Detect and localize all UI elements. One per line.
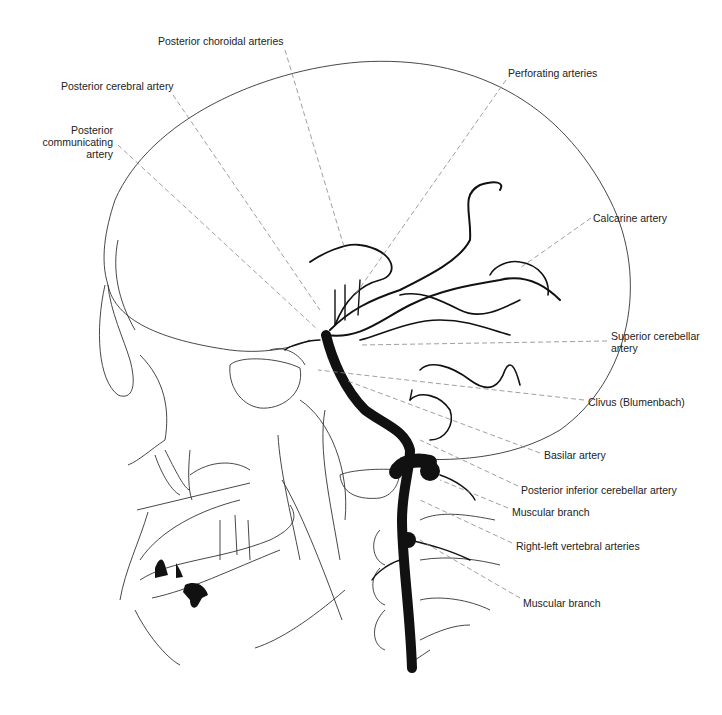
label-superior-cerebellar-artery-2: artery — [611, 342, 638, 354]
label-perforating-arteries: Perforating arteries — [508, 67, 597, 79]
skull-outline — [99, 61, 630, 648]
label-muscular-branch-2: Muscular branch — [523, 597, 601, 609]
leader-perforating-arteries — [355, 80, 506, 295]
leader-posterior-communicating-artery-3 — [118, 145, 318, 330]
cerebral-branches — [285, 182, 560, 580]
leader-superior-cerebellar-artery-1 — [360, 341, 607, 345]
label-posterior-communicating-artery-2: communicating — [40, 136, 113, 148]
label-posterior-communicating-artery-3: artery — [70, 148, 113, 160]
cervical-vertebrae — [340, 469, 500, 660]
leader-right-left-vertebral-arteries — [420, 500, 512, 543]
label-posterior-inferior-cerebellar-artery: Posterior inferior cerebellar artery — [521, 484, 677, 496]
label-basilar-artery: Basilar artery — [544, 449, 606, 461]
jaw-outline — [120, 450, 294, 665]
leader-muscular-branch-1 — [440, 480, 508, 508]
label-clivus: Clivus (Blumenbach) — [588, 396, 685, 408]
anatomy-illustration — [0, 0, 722, 715]
leader-calcarine-artery — [520, 218, 591, 268]
leader-muscular-branch-2 — [420, 540, 520, 598]
label-right-left-vertebral-arteries: Right-left vertebral arteries — [516, 540, 640, 552]
label-muscular-branch-1: Muscular branch — [512, 506, 590, 518]
label-posterior-cerebral-artery: Posterior cerebral artery — [61, 80, 174, 92]
label-calcarine-artery: Calcarine artery — [593, 212, 667, 224]
label-posterior-choroidal-arteries: Posterior choroidal arteries — [158, 35, 283, 47]
leader-posterior-cerebral-artery — [173, 95, 320, 310]
leader-posterior-choroidal-arteries — [285, 50, 345, 250]
label-superior-cerebellar-artery-1: Superior cerebellar — [611, 330, 700, 342]
label-posterior-communicating-artery-1: Posterior — [70, 124, 113, 136]
